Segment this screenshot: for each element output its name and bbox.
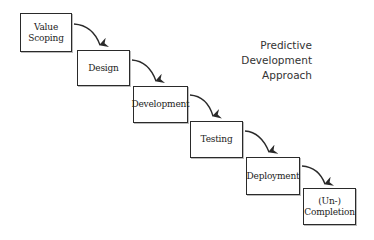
arrow-2-icon [132, 60, 156, 81]
phase-design: Design [77, 50, 130, 86]
phase-completion: (Un-) Completion [303, 188, 356, 225]
phase-deployment: Deployment [246, 157, 300, 195]
phase-label: Deployment [247, 171, 300, 182]
phase-label: Value Scoping [28, 22, 63, 44]
phase-label: Design [88, 63, 118, 74]
arrow-3-icon [190, 95, 213, 116]
waterfall-diagram: Predictive Development Approach Value Sc… [0, 0, 374, 240]
arrow-1-icon [74, 24, 100, 45]
phase-label: Testing [201, 134, 233, 145]
phase-development: Development [133, 86, 188, 123]
phase-testing: Testing [190, 121, 243, 158]
arrow-4-icon [245, 131, 269, 152]
phase-label: (Un-) Completion [304, 196, 355, 218]
phase-value-scoping: Value Scoping [20, 13, 72, 52]
phase-label: Development [131, 99, 189, 110]
arrow-5-icon [302, 166, 325, 184]
